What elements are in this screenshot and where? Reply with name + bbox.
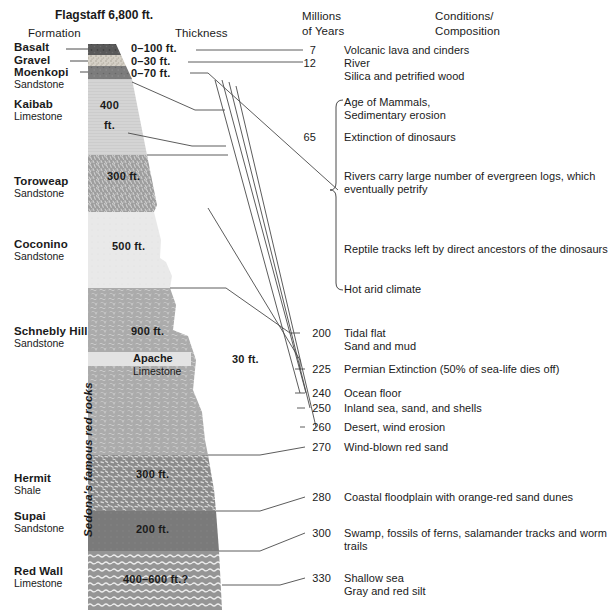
thickness-supai: 200 ft. — [136, 523, 169, 535]
myr-value: 65 — [288, 131, 316, 143]
thickness-schnebly-hill: 900 ft. — [131, 325, 164, 337]
thickness-basalt: 0–100 ft. — [131, 42, 177, 54]
condition-text: Sedimentary erosion — [344, 109, 446, 122]
thickness-apache: 30 ft. — [232, 353, 259, 365]
formation-leader-lines — [66, 49, 88, 72]
condition-text: eventually petrify — [344, 183, 427, 196]
formation-label-supai: Supai Sandstone — [14, 510, 64, 534]
layer-toroweap — [88, 155, 157, 212]
formation-label-hermit: Hermit Shale — [14, 472, 51, 496]
geologic-era-brace — [330, 100, 343, 290]
condition-text: Shallow sea — [344, 572, 404, 585]
apache-name: Apache — [133, 352, 173, 364]
formation-name: Kaibab — [14, 98, 62, 110]
condition-text: Ocean floor — [344, 387, 401, 400]
condition-text: Coastal floodplain with orange-red sand … — [344, 491, 573, 504]
formation-sub: Sandstone — [14, 522, 64, 534]
formation-name: Supai — [14, 510, 64, 522]
myr-value: 270 — [303, 441, 331, 453]
thickness-moenkopi: 0–70 ft. — [131, 67, 171, 79]
myr-value: 300 — [303, 527, 331, 539]
formation-name: Gravel — [14, 54, 50, 66]
layer-moenkopi — [88, 66, 132, 79]
myr-value: 280 — [303, 491, 331, 503]
condition-text: Desert, wind erosion — [344, 421, 445, 434]
condition-text: Reptile tracks left by direct ancestors … — [344, 243, 608, 256]
thickness-hermit: 300 ft. — [136, 468, 169, 480]
condition-text: Extinction of dinosaurs — [344, 131, 456, 144]
formation-label-moenkopi: Moenkopi Sandstone — [14, 66, 68, 90]
formation-name: Hermit — [14, 472, 51, 484]
formation-name: Schnebly Hill — [14, 325, 88, 337]
formation-sub: Limestone — [14, 110, 62, 122]
condition-text: Hot arid climate — [344, 283, 421, 296]
formation-name: Red Wall — [14, 565, 63, 577]
myr-value: 330 — [303, 572, 331, 584]
condition-text: Swamp, fossils of ferns, salamander trac… — [344, 527, 607, 540]
thickness-toroweap: 300 ft. — [107, 170, 140, 182]
condition-text: Inland sea, sand, and shells — [344, 402, 482, 415]
formation-label-kaibab: Kaibab Limestone — [14, 98, 62, 122]
condition-text: Silica and petrified wood — [344, 70, 465, 83]
apache-sub: Limestone — [133, 365, 181, 377]
myr-value: 7 — [288, 44, 316, 56]
myr-value: 200 — [303, 327, 331, 339]
condition-text: Sand and mud — [344, 340, 416, 353]
formation-sub: Limestone — [14, 577, 63, 589]
myr-value: 225 — [303, 363, 331, 375]
condition-text: River — [344, 57, 370, 70]
condition-text: trails — [344, 540, 368, 553]
condition-text: Permian Extinction (50% of sea-life dies… — [344, 363, 559, 376]
formation-label-gravel: Gravel — [14, 54, 50, 66]
layer-kaibab — [88, 79, 147, 155]
formation-label-red-wall: Red Wall Limestone — [14, 565, 63, 589]
condition-text: Volcanic lava and cinders — [344, 44, 469, 57]
thickness-coconino: 500 ft. — [112, 240, 145, 252]
condition-text: Age of Mammals, — [344, 96, 430, 109]
thickness-red-wall: 400–600 ft.? — [123, 573, 188, 585]
layer-gravel — [88, 55, 126, 66]
formation-label-coconino: Coconino Sandstone — [14, 238, 68, 262]
formation-name: Moenkopi — [14, 66, 68, 78]
thickness-gravel: 0–30 ft. — [131, 55, 171, 67]
condition-text: Gray and red silt — [344, 585, 426, 598]
formation-sub: Sandstone — [14, 78, 68, 90]
myr-value: 260 — [303, 421, 331, 433]
condition-text: Wind-blown red sand — [344, 441, 448, 454]
formation-label-toroweap: Toroweap Sandstone — [14, 175, 68, 199]
condition-text: Tidal flat — [344, 327, 386, 340]
formation-sub: Sandstone — [14, 337, 88, 349]
myr-value: 250 — [303, 402, 331, 414]
layer-hermit — [88, 455, 216, 511]
formation-sub: Sandstone — [14, 187, 68, 199]
sedona-red-rocks-label: Sedona's famous red rocks — [82, 382, 94, 537]
myr-value: 12 — [288, 57, 316, 69]
formation-name: Basalt — [14, 41, 49, 53]
formation-name: Toroweap — [14, 175, 68, 187]
formation-sub: Shale — [14, 484, 51, 496]
thickness-kaibab-line1: 400 — [100, 99, 119, 111]
condition-text: Rivers carry large number of evergreen l… — [344, 170, 595, 183]
formation-name: Coconino — [14, 238, 68, 250]
myr-value: 240 — [303, 387, 331, 399]
layer-basalt — [88, 44, 121, 55]
formation-label-basalt: Basalt — [14, 41, 49, 53]
formation-label-schnebly-hill: Schnebly Hill Sandstone — [14, 325, 88, 349]
formation-sub: Sandstone — [14, 250, 68, 262]
thickness-kaibab-line2: ft. — [104, 119, 115, 131]
